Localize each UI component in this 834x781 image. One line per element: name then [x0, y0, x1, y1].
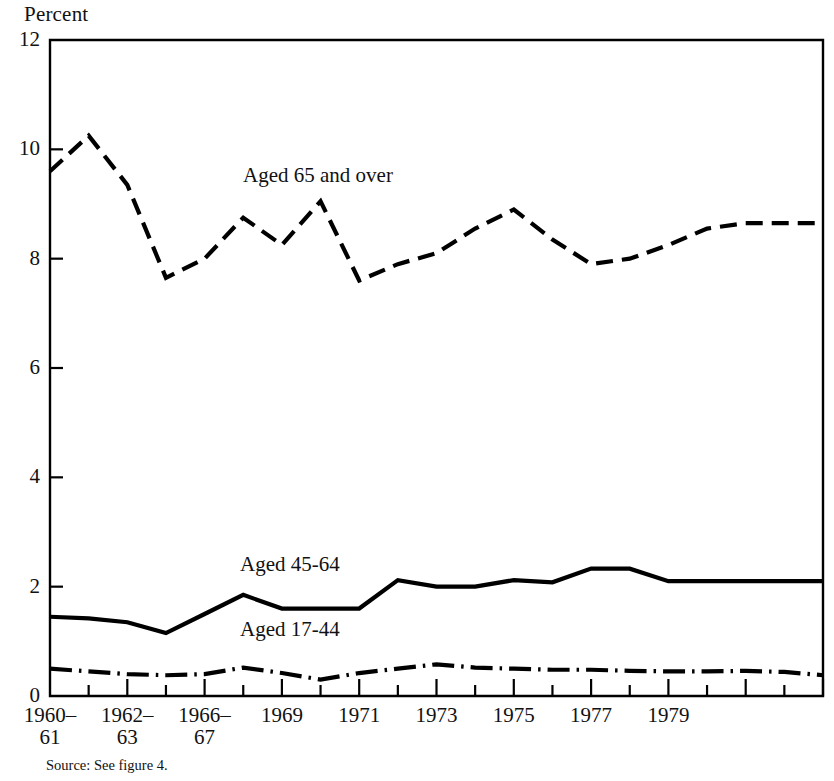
data-series-line-3: [50, 664, 823, 679]
y-tick-label: 10: [0, 136, 40, 161]
x-tick-label-line1: 1977: [570, 703, 612, 727]
axis-frame: [50, 40, 823, 696]
y-tick-label: 4: [0, 464, 40, 489]
x-tick-label: 1979: [613, 704, 723, 726]
x-tick-label-line1: 1969: [261, 703, 303, 727]
y-tick-label: 12: [0, 27, 40, 52]
series-label-2: Aged 45-64: [240, 552, 340, 577]
x-tick-label-line1: 1960–: [24, 703, 77, 727]
chart-plot-area: [0, 0, 834, 781]
x-tick-label-line1: 1971: [338, 703, 380, 727]
x-tick-label-line1: 1973: [416, 703, 458, 727]
x-tick-label-line1: 1966–: [178, 703, 231, 727]
y-tick-label: 6: [0, 355, 40, 380]
y-tick-label: 8: [0, 246, 40, 271]
x-tick-label-line1: 1975: [493, 703, 535, 727]
data-series-line-2: [50, 569, 823, 634]
x-axis-ticks: [89, 679, 823, 696]
x-tick-label-line1: 1962–: [101, 703, 154, 727]
x-tick-label-line1: 1979: [647, 703, 689, 727]
data-series-line-1: [50, 136, 823, 281]
source-note: Source: See figure 4.: [46, 757, 168, 774]
y-axis-ticks: [50, 149, 63, 586]
y-tick-label: 2: [0, 574, 40, 599]
x-tick-label-line2: 67: [150, 726, 260, 748]
series-label-3: Aged 17-44: [240, 617, 340, 642]
series-label-1: Aged 65 and over: [243, 163, 393, 188]
figure-container: Percent 024681012 1960–611962–631966–671…: [0, 0, 834, 781]
